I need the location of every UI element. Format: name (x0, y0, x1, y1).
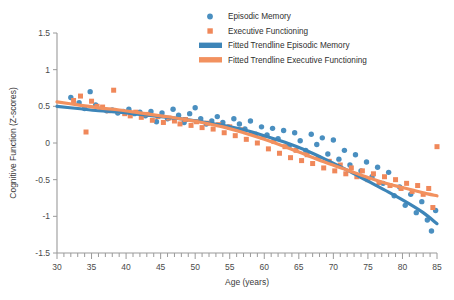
legend-label: Episodic Memory (228, 12, 292, 21)
x-tick-label: 60 (260, 262, 270, 272)
data-point (314, 142, 319, 147)
data-point (364, 159, 369, 164)
y-axis-title: Cognitive Function (Z-scores) (8, 87, 18, 199)
x-tick-label: 30 (52, 262, 62, 272)
x-tick-label: 55 (225, 262, 235, 272)
data-point (255, 141, 260, 146)
legend-line-marker (199, 57, 222, 62)
data-point (332, 168, 337, 173)
data-point (161, 120, 166, 125)
x-tick-label: 50 (190, 262, 200, 272)
data-point (375, 165, 380, 170)
data-point (299, 158, 304, 163)
data-point (331, 137, 336, 142)
data-point (78, 94, 83, 99)
data-point (429, 228, 434, 233)
data-point (353, 152, 358, 157)
data-point (270, 126, 275, 131)
data-point (177, 121, 182, 126)
data-point (360, 168, 365, 173)
y-tick-label: -1 (42, 211, 50, 221)
data-point (310, 161, 315, 166)
data-point (415, 183, 420, 188)
data-point (393, 177, 398, 182)
chart-container: Episodic MemoryExecutive FunctioningFitt… (0, 0, 454, 300)
data-point (404, 181, 409, 186)
data-point (211, 127, 216, 132)
data-point (277, 151, 282, 156)
data-point (325, 151, 330, 156)
legend-line-marker (199, 43, 222, 48)
data-point (382, 174, 387, 179)
data-point (189, 123, 194, 128)
data-point (266, 146, 271, 151)
data-point (309, 132, 314, 137)
x-axis-title: Age (years) (225, 277, 269, 287)
y-tick-label: 0.5 (38, 101, 50, 111)
data-point (298, 138, 303, 143)
data-point (215, 114, 220, 119)
data-point (371, 171, 376, 176)
data-point (386, 170, 391, 175)
x-tick-label: 40 (121, 262, 131, 272)
y-tick-label: 1.5 (38, 28, 50, 38)
data-point (187, 111, 192, 116)
cognitive-function-scatter-chart: Episodic MemoryExecutive FunctioningFitt… (0, 0, 454, 300)
x-tick-label: 80 (398, 262, 408, 272)
data-point (71, 98, 76, 103)
legend-square-marker (207, 28, 212, 33)
data-point (336, 156, 341, 161)
y-tick-label: -0.5 (35, 175, 50, 185)
data-point (426, 186, 431, 191)
x-tick-label: 75 (363, 262, 373, 272)
legend-label: Executive Functioning (228, 27, 309, 36)
data-point (150, 118, 155, 123)
data-point (435, 144, 440, 149)
data-point (419, 199, 424, 204)
x-tick-label: 70 (329, 262, 339, 272)
data-point (281, 128, 286, 133)
data-point (292, 130, 297, 135)
data-point (222, 130, 227, 135)
data-point (170, 107, 175, 112)
chart-background (0, 0, 454, 300)
data-point (89, 99, 94, 104)
data-point (430, 205, 435, 210)
y-tick-label: 1 (45, 65, 50, 75)
y-tick-label: -1.5 (35, 248, 50, 258)
data-point (259, 124, 264, 129)
x-tick-label: 35 (87, 262, 97, 272)
data-point (320, 135, 325, 140)
legend-label: Fitted Trendline Executive Functioning (228, 56, 367, 65)
x-tick-label: 65 (294, 262, 304, 272)
data-point (192, 105, 197, 110)
legend-circle-marker (207, 14, 213, 20)
x-tick-label: 45 (156, 262, 166, 272)
data-point (111, 88, 116, 93)
data-point (231, 116, 236, 121)
data-point (248, 118, 253, 123)
data-point (342, 148, 347, 153)
data-point (288, 155, 293, 160)
data-point (84, 130, 89, 135)
x-tick-label: 85 (432, 262, 442, 272)
data-point (200, 125, 205, 130)
data-point (233, 133, 238, 138)
data-point (87, 89, 92, 94)
legend-label: Fitted Trendline Episodic Memory (228, 41, 350, 50)
data-point (237, 121, 242, 126)
data-point (244, 137, 249, 142)
y-tick-label: 0 (45, 138, 50, 148)
data-point (321, 165, 326, 170)
